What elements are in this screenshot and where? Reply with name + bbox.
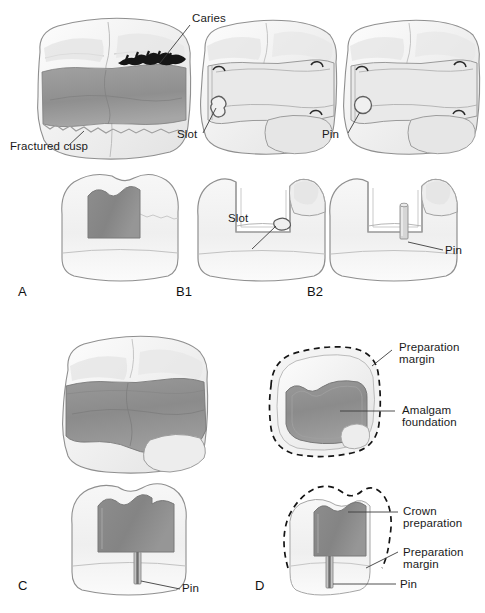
amalgam-foundation-buccal [98, 495, 174, 552]
cusp-tip-shade [294, 181, 318, 204]
panel-a-occlusal-view [38, 18, 191, 159]
label-crown-preparation-line2: preparation [403, 517, 462, 530]
label-pin-b2-occlusal: Pin [322, 128, 339, 141]
cusp-tip-shade [426, 181, 450, 204]
restored-cusp-lobe [341, 424, 370, 449]
label-caries: Caries [192, 12, 226, 25]
panel-id-a: A [18, 284, 27, 299]
panel-b1-occlusal-view [201, 20, 337, 154]
label-fractured-cusp: Fractured cusp [10, 140, 88, 153]
panel-a-buccal-view [62, 174, 179, 281]
cavity-amalgam-region [42, 64, 186, 126]
label-crown-preparation-line1: Crown [403, 505, 437, 518]
label-preparation-margin-occlusal-line2: margin [399, 353, 435, 366]
label-amalgam-foundation-line2: foundation [402, 416, 457, 429]
label-slot-buccal: Slot [228, 212, 248, 225]
panel-c-occlusal-view [63, 336, 208, 473]
label-pin-b2-buccal: Pin [445, 244, 462, 257]
label-preparation-margin-buccal-line1: Preparation [403, 546, 464, 559]
panel-id-b2: B2 [307, 284, 323, 299]
pin-cylinder [400, 205, 408, 239]
panel-b2-occlusal-view [344, 20, 480, 154]
label-preparation-margin-occlusal-line1: Preparation [399, 341, 460, 354]
label-amalgam-foundation-line1: Amalgam [402, 404, 451, 417]
label-preparation-margin-buccal-line2: margin [403, 558, 439, 571]
panel-id-b1: B1 [176, 284, 192, 299]
panel-c-buccal-view [72, 484, 187, 595]
slot-on-pulpal-floor [274, 218, 291, 230]
panel-id-c: C [18, 578, 28, 593]
panel-id-d: D [255, 578, 265, 593]
label-pin-panel-d: Pin [400, 578, 417, 591]
pin-channel-circle [355, 97, 372, 114]
pin-top-ellipse [400, 203, 408, 207]
label-slot-occlusal: Slot [177, 128, 197, 141]
missing-cusp-region [408, 115, 475, 153]
label-pin-panel-c: Pin [182, 582, 199, 595]
